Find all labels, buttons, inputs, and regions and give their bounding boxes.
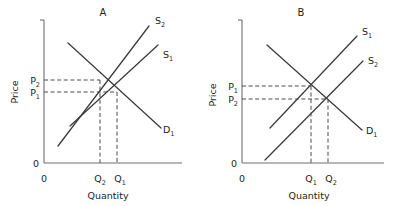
panel-a-quantity-tick-q1: Q1 (114, 173, 126, 187)
panel-a-price-tick-p1-sub: 1 (36, 93, 40, 101)
panel-b-curve-label-s1: S1 (362, 26, 372, 40)
panel-b-price-tick-p2: P2 (228, 94, 238, 108)
supply-demand-figure: A P2 P1 0 0 Q2 Q1 (0, 0, 393, 206)
panel-b-curve-label-s1-sub: 1 (368, 32, 372, 40)
panel-b-curve-label-d1-sub: 1 (373, 131, 377, 139)
panel-b-origin-axis-label: 0 (239, 173, 245, 184)
panel-a-curve-label-s2-sub: 2 (161, 21, 165, 29)
panel-a-origin-label: 0 (33, 158, 39, 169)
panel-b-quantity-tick-q2-base: Q (325, 173, 332, 184)
panel-a-quantity-tick-q2: Q2 (94, 173, 106, 187)
panel-b-curve-label-s2: S2 (368, 55, 378, 69)
panel-a-supply-curve-s2 (58, 26, 149, 146)
panel-a-price-tick-p2-sub: 2 (36, 81, 40, 89)
panel-b-curve-label-d1: D1 (366, 125, 377, 139)
panel-a-quantity-tick-q2-base: Q (94, 173, 101, 184)
panel-b-quantity-tick-q2: Q2 (325, 173, 337, 187)
panel-b-quantity-tick-q2-sub: 2 (333, 179, 337, 187)
panel-b: B P1 P2 0 0 Q1 Q2 (194, 0, 390, 206)
panel-b-quantity-tick-q1-sub: 1 (313, 179, 317, 187)
panel-b-quantity-tick-q1-base: Q (305, 173, 312, 184)
panel-b-curve-label-s2-sub: 2 (374, 61, 378, 69)
panel-a-x-axis-title: Quantity (87, 190, 128, 201)
panel-b-price-tick-p1-sub: 1 (234, 87, 238, 95)
panel-a-curve-label-d1-sub: 1 (170, 130, 174, 138)
panel-b-curve-label-d1-base: D (366, 125, 373, 136)
panel-a-title: A (100, 7, 107, 18)
panel-a-curve-label-d1: D1 (163, 124, 174, 138)
panel-a-curve-label-s1-sub: 1 (169, 55, 173, 63)
panel-b-x-axis-title: Quantity (288, 190, 329, 201)
panel-b-supply-curve-s2 (265, 61, 363, 160)
panel-a-price-tick-p1: P1 (30, 87, 40, 101)
panel-a-quantity-tick-q2-sub: 2 (102, 179, 106, 187)
panel-a-curve-label-s1: S1 (163, 49, 173, 63)
panel-b-title: B (298, 7, 305, 18)
panel-a-y-axis-title: Price (9, 80, 20, 103)
panel-a: A P2 P1 0 0 Q2 Q1 (0, 0, 196, 206)
panel-b-price-tick-p2-sub: 2 (234, 100, 238, 108)
panel-a-quantity-tick-q1-sub: 1 (122, 179, 126, 187)
panel-b-origin-label: 0 (231, 158, 237, 169)
panel-a-curve-label-d1-base: D (163, 124, 170, 135)
panel-a-origin-axis-label: 0 (41, 173, 47, 184)
panel-b-demand-curve-d1 (267, 45, 362, 130)
panel-a-quantity-tick-q1-base: Q (114, 173, 121, 184)
panel-b-y-axis-title: Price (207, 83, 218, 106)
panel-b-quantity-tick-q1: Q1 (305, 173, 317, 187)
panel-b-price-tick-p1: P1 (228, 81, 238, 95)
panel-a-curve-label-s2: S2 (155, 15, 165, 29)
